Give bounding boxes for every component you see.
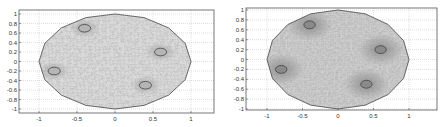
svg-text:-0.6: -0.6 bbox=[234, 86, 245, 92]
svg-text:0.5: 0.5 bbox=[369, 113, 378, 119]
svg-text:0.8: 0.8 bbox=[236, 17, 245, 23]
hole-1 bbox=[304, 21, 315, 29]
svg-text:0: 0 bbox=[241, 57, 245, 63]
svg-text:-0.2: -0.2 bbox=[234, 66, 245, 72]
svg-text:0.6: 0.6 bbox=[236, 27, 245, 33]
svg-text:-1: -1 bbox=[264, 113, 270, 119]
svg-text:-0.4: -0.4 bbox=[234, 76, 245, 82]
hole-4 bbox=[361, 80, 372, 88]
svg-text:-1: -1 bbox=[239, 106, 245, 112]
mesh-domain bbox=[245, 7, 438, 112]
svg-text:0.4: 0.4 bbox=[236, 37, 245, 43]
hole-2 bbox=[375, 46, 386, 54]
svg-text:-0.8: -0.8 bbox=[234, 96, 245, 102]
hole-3 bbox=[276, 65, 287, 73]
svg-text:0: 0 bbox=[336, 113, 340, 119]
svg-text:1: 1 bbox=[241, 7, 245, 13]
svg-text:0.2: 0.2 bbox=[236, 47, 245, 53]
svg-text:1: 1 bbox=[407, 113, 411, 119]
chart-svg: -1-0.500.5110.80.60.40.20-0.2-0.4-0.6-0.… bbox=[0, 0, 442, 127]
svg-text:-0.5: -0.5 bbox=[297, 113, 308, 119]
mesh-plot-refined: -1-0.500.5110.80.60.40.20-0.2-0.4-0.6-0.… bbox=[0, 0, 442, 127]
